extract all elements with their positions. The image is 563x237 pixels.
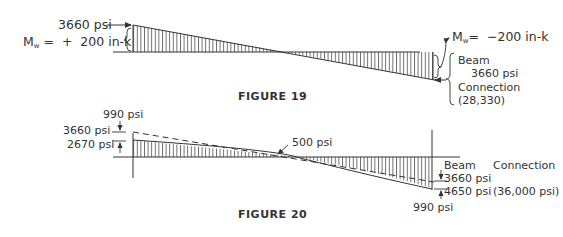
figure-19-caption: FIGURE 19 (238, 90, 307, 103)
fig20-negative-stress-area (298, 157, 432, 188)
fig19-connection-label: Connection (458, 82, 520, 94)
fig20-right-beam-stress: 3660 psi (444, 173, 491, 185)
figure-20-diagram (112, 121, 460, 199)
fig20-right-combined-stress: 4650 psi (444, 186, 491, 198)
fig20-left-beam-stress: 2670 psi (67, 139, 114, 151)
fig20-positive-stress-area (133, 140, 298, 157)
fig19-right-group-brace (446, 53, 454, 105)
fig20-connection-header: Connection (493, 160, 555, 172)
fig20-500-pointer (278, 145, 288, 154)
fig20-right-connection-stress: (36,000 psi) (493, 186, 559, 198)
figure-20-caption: FIGURE 20 (238, 208, 307, 221)
fig20-beam-header: Beam (444, 160, 476, 172)
fig19-right-moment-pointer (441, 38, 449, 67)
fig19-left-moment-label: Mw = + 200 in-k (23, 36, 131, 52)
fig19-connection-value: (28,330) (458, 95, 505, 107)
fig19-right-brace (434, 55, 441, 78)
fig20-middle-label: 500 psi (292, 137, 332, 149)
fig19-beam-stress: 3660 psi (471, 68, 518, 80)
fig20-left-top-diff: 990 psi (103, 109, 143, 121)
fig20-left-connection-stress: 3660 psi (63, 125, 110, 137)
fig20-right-bottom-diff: 990 psi (413, 202, 453, 214)
fig19-left-stress-label: 3660 psi (58, 19, 112, 31)
fig19-right-moment-label: Mw= −200 in-k (452, 31, 548, 47)
fig19-beam-label: Beam (458, 55, 490, 67)
